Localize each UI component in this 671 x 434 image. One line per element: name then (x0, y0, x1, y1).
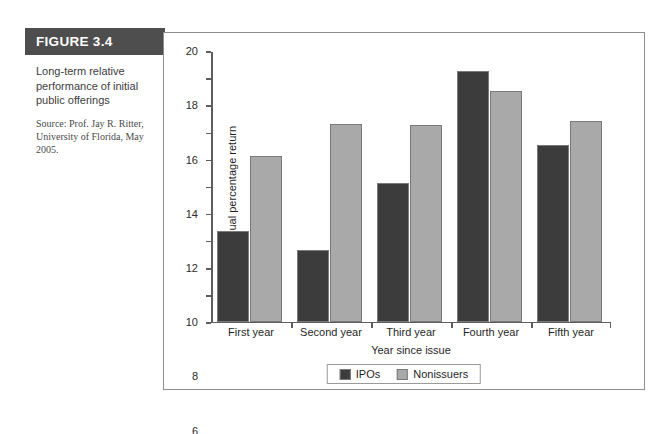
y-axis-tick-label: 20 (186, 45, 198, 57)
bar-group: Third year (371, 51, 451, 322)
bar-ipos-first-year (217, 231, 249, 322)
bar-nonissuers-fifth-year (570, 121, 602, 322)
figure-title: Long-term relative performance of initia… (25, 64, 165, 108)
bar-ipos-fourth-year (457, 71, 489, 322)
bar-group: Second year (291, 51, 371, 322)
x-axis-tick-label: Second year (291, 326, 371, 338)
x-axis-tick-label: Fifth year (531, 326, 611, 338)
legend-swatch-icon (397, 369, 408, 380)
x-axis-tick-label: Fourth year (451, 326, 531, 338)
bar-group: Fifth year (531, 51, 611, 322)
y-axis-tick-label: 6 (192, 425, 198, 434)
bar-ipos-fifth-year (537, 145, 569, 321)
figure-source: Source: Prof. Jay R. Ritter, University … (25, 117, 160, 156)
y-axis-tick-label: 10 (186, 316, 198, 328)
figure-banner: FIGURE 3.4 (25, 28, 165, 55)
y-axis-tick-label: 12 (186, 262, 198, 274)
bar-nonissuers-second-year (330, 124, 362, 322)
y-axis-tick-label: 8 (192, 370, 198, 382)
x-axis-title: Year since issue (211, 344, 611, 356)
y-axis-tick-label: 18 (186, 99, 198, 111)
legend-item-ipos[interactable]: IPOs (340, 368, 380, 380)
bar-nonissuers-third-year (410, 125, 442, 321)
bar-nonissuers-fourth-year (490, 91, 522, 321)
plot-area: 20181614121086420 First yearSecond yearT… (211, 52, 611, 323)
x-axis-line (211, 322, 611, 324)
bar-group: Fourth year (451, 51, 531, 322)
figure-caption-block: FIGURE 3.4 Long-term relative performanc… (25, 28, 165, 156)
y-axis-tick-label: 16 (186, 154, 198, 166)
bar-ipos-second-year (297, 250, 329, 322)
y-axis-tick-label: 14 (186, 208, 198, 220)
bar-nonissuers-first-year (250, 156, 282, 321)
chart-legend: IPOsNonissuers (327, 364, 481, 384)
legend-label: IPOs (356, 368, 380, 380)
y-axis-tick: 0 (206, 322, 211, 324)
legend-swatch-icon (340, 369, 351, 380)
x-axis-tick-label: Third year (371, 326, 451, 338)
legend-item-nonissuers[interactable]: Nonissuers (397, 368, 468, 380)
chart-frame: Annual percentage return 201816141210864… (163, 32, 645, 390)
x-axis-tick-label: First year (211, 326, 291, 338)
figure-number-label: FIGURE 3.4 (36, 34, 113, 49)
legend-label: Nonissuers (413, 368, 468, 380)
bar-group: First year (211, 51, 291, 322)
bar-ipos-third-year (377, 183, 409, 321)
